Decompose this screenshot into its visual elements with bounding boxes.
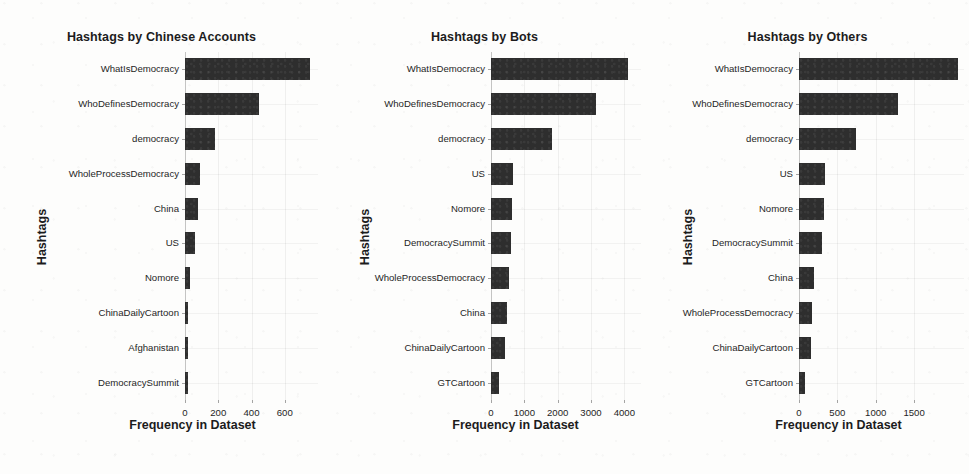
y-tick-mark (488, 69, 491, 70)
y-tick-mark (182, 348, 185, 349)
bar (799, 267, 814, 289)
y-tick-mark (182, 383, 185, 384)
gridline-horizontal (185, 313, 318, 314)
category-label: US (472, 169, 485, 179)
x-tick-label: 1500 (903, 407, 924, 418)
bar (185, 372, 188, 394)
gridline-horizontal (185, 209, 318, 210)
plot-area: WhatIsDemocracyWhoDefinesDemocracydemocr… (799, 52, 964, 400)
category-label: DemocracySummit (404, 238, 485, 248)
bar (491, 372, 499, 394)
y-tick-mark (488, 348, 491, 349)
chart-panel-3: Hashtags by OthersHashtagsFrequency in D… (646, 0, 969, 474)
x-tick-mark (876, 400, 877, 403)
x-tick-mark (591, 400, 592, 403)
x-tick-label: 0 (796, 407, 801, 418)
gridline-horizontal (185, 278, 318, 279)
category-label: Nomore (145, 273, 179, 283)
y-tick-mark (796, 69, 799, 70)
bar (491, 302, 507, 324)
category-label: WhoDefinesDemocracy (78, 99, 179, 109)
bar (491, 93, 596, 115)
gridline-horizontal (799, 348, 964, 349)
category-label: ChinaDailyCartoon (712, 343, 793, 353)
y-tick-mark (182, 139, 185, 140)
gridline-horizontal (799, 383, 964, 384)
y-tick-mark (182, 209, 185, 210)
bar (799, 198, 824, 220)
gridline-horizontal (799, 313, 964, 314)
gridline-horizontal (185, 348, 318, 349)
x-tick-mark (914, 400, 915, 403)
bar (185, 163, 200, 185)
x-tick-mark (837, 400, 838, 403)
bar (799, 93, 898, 115)
y-tick-mark (796, 348, 799, 349)
gridline-horizontal (491, 278, 641, 279)
category-label: democracy (746, 134, 793, 144)
category-label: Nomore (451, 204, 485, 214)
category-label: WhatIsDemocracy (101, 64, 179, 74)
category-label: WholeProcessDemocracy (69, 169, 179, 179)
y-tick-mark (488, 174, 491, 175)
category-label: Afghanistan (128, 343, 179, 353)
category-label: democracy (132, 134, 179, 144)
y-tick-mark (796, 278, 799, 279)
x-tick-mark (185, 400, 186, 403)
category-label: WholeProcessDemocracy (375, 273, 485, 283)
bar (185, 267, 190, 289)
chart-title: Hashtags by Bots (323, 30, 646, 44)
y-tick-mark (488, 243, 491, 244)
gridline-horizontal (491, 383, 641, 384)
category-label: ChinaDailyCartoon (98, 308, 179, 318)
chart-title: Hashtags by Others (646, 30, 969, 44)
bar (799, 128, 856, 150)
category-label: WhatIsDemocracy (715, 64, 793, 74)
y-tick-mark (796, 313, 799, 314)
y-tick-mark (488, 139, 491, 140)
x-axis-ticks: 050010001500 (799, 400, 964, 422)
category-label: WhatIsDemocracy (407, 64, 485, 74)
category-label: China (768, 273, 793, 283)
x-tick-label: 500 (829, 407, 845, 418)
y-tick-mark (796, 209, 799, 210)
y-tick-mark (488, 313, 491, 314)
gridline-horizontal (185, 383, 318, 384)
gridline-horizontal (491, 243, 641, 244)
category-label: China (460, 308, 485, 318)
x-tick-label: 1000 (514, 407, 535, 418)
y-tick-mark (182, 278, 185, 279)
bar (491, 58, 628, 80)
x-tick-label: 0 (182, 407, 187, 418)
gridline-horizontal (491, 174, 641, 175)
x-tick-label: 1000 (865, 407, 886, 418)
y-tick-mark (796, 139, 799, 140)
category-label: WhoDefinesDemocracy (692, 99, 793, 109)
bar (799, 58, 958, 80)
category-label: Nomore (759, 204, 793, 214)
bar (799, 232, 822, 254)
bar (491, 128, 552, 150)
category-label: ChinaDailyCartoon (404, 343, 485, 353)
category-label: democracy (438, 134, 485, 144)
y-tick-mark (796, 104, 799, 105)
x-tick-label: 4000 (614, 407, 635, 418)
category-label: China (154, 204, 179, 214)
y-tick-mark (488, 383, 491, 384)
y-tick-mark (182, 174, 185, 175)
category-label: DemocracySummit (98, 378, 179, 388)
bar (799, 163, 825, 185)
category-label: GTCartoon (438, 378, 485, 388)
x-tick-label: 3000 (580, 407, 601, 418)
x-axis-ticks: 01000200030004000 (491, 400, 641, 422)
category-label: US (166, 238, 179, 248)
y-tick-mark (182, 69, 185, 70)
category-label: DemocracySummit (712, 238, 793, 248)
gridline-horizontal (185, 174, 318, 175)
bar (185, 58, 310, 80)
bar (185, 302, 188, 324)
bar (185, 337, 188, 359)
y-tick-mark (488, 278, 491, 279)
gridline-horizontal (799, 243, 964, 244)
gridline-horizontal (491, 209, 641, 210)
